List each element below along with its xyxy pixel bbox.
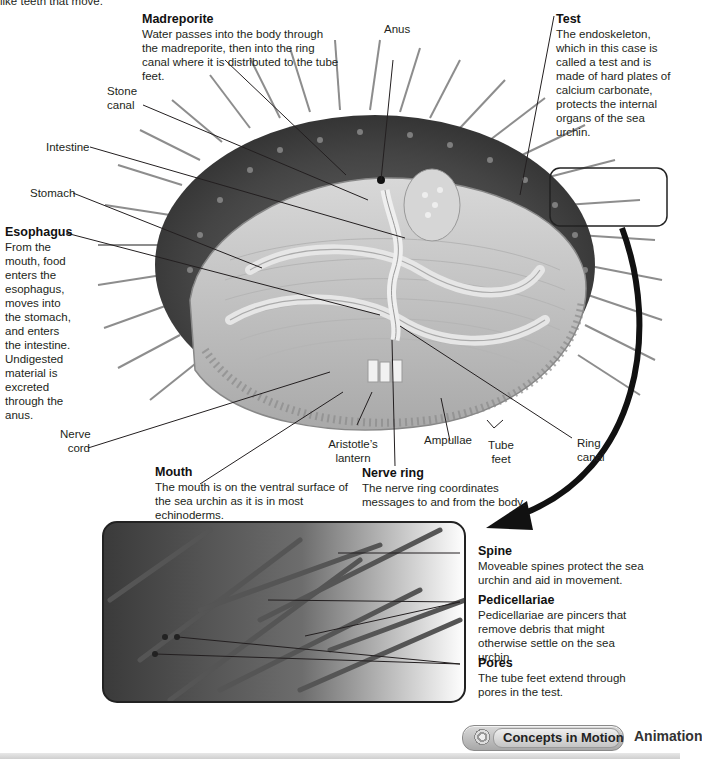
label-esophagus: Esophagus From the mouth, food enters th… [5, 225, 71, 422]
nerve-ring-body: The nerve ring coordinates messages to a… [362, 481, 542, 509]
inset-spines-image [103, 522, 465, 702]
animation-link[interactable]: Animation [634, 728, 702, 744]
page-bottom-bar [0, 753, 680, 759]
concepts-in-motion-button[interactable]: Concepts in Motion [462, 725, 624, 751]
label-ampullae: Ampullae [424, 433, 472, 447]
label-ring-canal: Ring canal [577, 436, 607, 464]
esophagus-body: From the mouth, food enters the esophagu… [5, 240, 71, 422]
esophagus-title: Esophagus [5, 225, 71, 240]
label-pores: Pores The tube feet extend through pores… [478, 656, 648, 699]
nerve-ring-title: Nerve ring [362, 466, 542, 481]
label-tube-feet: Tube feet [486, 438, 516, 466]
label-spine: Spine Moveable spines protect the sea ur… [478, 544, 648, 587]
test-body: The endoskeleton, which in this case is … [556, 27, 680, 139]
pores-body: The tube feet extend through pores in th… [478, 671, 648, 699]
spine-body: Moveable spines protect the sea urchin a… [478, 559, 648, 587]
label-nerve-ring: Nerve ring The nerve ring coordinates me… [362, 466, 542, 509]
intro-fragment: like teeth that move. [0, 0, 103, 8]
label-stomach: Stomach [30, 186, 75, 200]
aristotles-lantern-shape [368, 360, 402, 382]
mouth-body: The mouth is on the ventral surface of t… [155, 480, 360, 522]
label-nerve-cord: Nerve cord [60, 427, 90, 455]
label-intestine: Intestine [46, 140, 89, 154]
madreporite-body: Water passes into the body through the m… [142, 27, 342, 83]
label-stone-canal: Stone canal [107, 84, 143, 112]
label-test: Test The endoskeleton, which in this cas… [556, 12, 680, 139]
pedicellariae-title: Pedicellariae [478, 593, 638, 608]
label-madreporite: Madreporite Water passes into the body t… [142, 12, 342, 83]
madreporite-title: Madreporite [142, 12, 342, 27]
label-mouth: Mouth The mouth is on the ventral surfac… [155, 465, 360, 522]
concepts-in-motion-label: Concepts in Motion [503, 730, 624, 745]
label-pedicellariae: Pedicellariae Pedicellariae are pincers … [478, 593, 638, 664]
mouth-title: Mouth [155, 465, 360, 480]
label-anus: Anus [384, 22, 410, 36]
concepts-in-motion-icon [469, 729, 491, 745]
test-title: Test [556, 12, 680, 27]
spine-title: Spine [478, 544, 648, 559]
pores-title: Pores [478, 656, 648, 671]
label-aristotles-lantern: Aristotle’s lantern [320, 437, 386, 465]
